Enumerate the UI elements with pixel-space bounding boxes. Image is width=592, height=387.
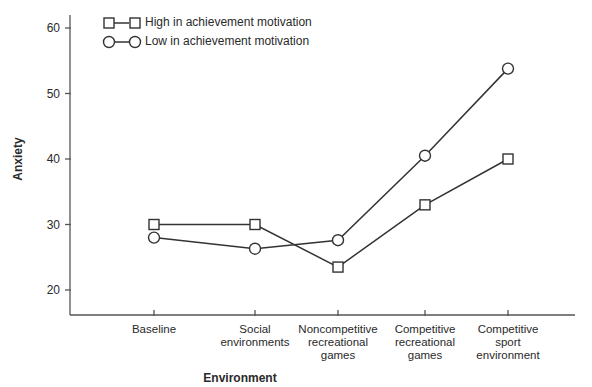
- square-marker: [333, 262, 343, 272]
- x-tick-label: Competitivesportenvironment: [453, 323, 563, 362]
- legend-circle-icon: [104, 37, 115, 48]
- x-axis-title: Environment: [140, 371, 340, 385]
- square-marker: [250, 220, 260, 230]
- y-tick-label: 50: [30, 87, 60, 101]
- circle-marker: [149, 232, 160, 243]
- legend-label: High in achievement motivation: [145, 15, 312, 29]
- y-tick-label: 30: [30, 218, 60, 232]
- legend-square-icon: [104, 18, 114, 28]
- circle-marker: [503, 63, 514, 74]
- series-line-0: [154, 159, 508, 267]
- series-line-1: [154, 69, 508, 249]
- y-tick-label: 20: [30, 283, 60, 297]
- square-marker: [420, 200, 430, 210]
- square-marker: [149, 220, 159, 230]
- legend-square-icon: [130, 18, 140, 28]
- y-tick-label: 40: [30, 152, 60, 166]
- legend-label: Low in achievement motivation: [145, 34, 309, 48]
- y-tick-label: 60: [30, 21, 60, 35]
- circle-marker: [420, 150, 431, 161]
- y-axis-title: Anxiety: [11, 119, 25, 199]
- circle-marker: [333, 235, 344, 246]
- square-marker: [503, 154, 513, 164]
- circle-marker: [250, 243, 261, 254]
- legend-circle-icon: [130, 37, 141, 48]
- x-tick-label: Baseline: [99, 323, 209, 336]
